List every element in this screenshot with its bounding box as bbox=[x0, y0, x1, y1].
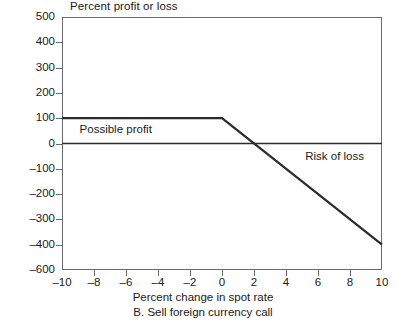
y-tick-mark bbox=[56, 219, 62, 220]
x-tick-mark bbox=[94, 270, 95, 276]
chart-figure: Percent profit or loss 5004003002001000–… bbox=[0, 0, 406, 322]
y-tick-mark bbox=[56, 194, 62, 195]
x-tick-mark bbox=[222, 270, 223, 276]
panel-caption: B. Sell foreign currency call bbox=[0, 306, 406, 318]
x-tick-mark bbox=[190, 270, 191, 276]
y-tick-mark bbox=[56, 68, 62, 69]
x-tick-mark bbox=[158, 270, 159, 276]
x-tick-mark bbox=[254, 270, 255, 276]
y-tick-mark bbox=[56, 93, 62, 94]
x-tick-mark bbox=[350, 270, 351, 276]
y-tick-label: 300 bbox=[9, 62, 55, 74]
y-tick-label: –300 bbox=[9, 214, 55, 226]
y-tick-mark bbox=[56, 144, 62, 145]
y-tick-mark bbox=[56, 245, 62, 246]
x-tick-mark bbox=[318, 270, 319, 276]
x-axis-title: Percent change in spot rate bbox=[0, 291, 406, 303]
y-tick-mark bbox=[56, 118, 62, 119]
y-tick-label: 0 bbox=[9, 138, 55, 150]
y-tick-label: –200 bbox=[9, 188, 55, 200]
y-tick-label: –600 bbox=[9, 264, 55, 276]
y-tick-mark bbox=[56, 42, 62, 43]
x-tick-mark bbox=[126, 270, 127, 276]
y-tick-mark bbox=[56, 169, 62, 170]
y-tick-label: 500 bbox=[9, 11, 55, 23]
data-layer bbox=[62, 17, 382, 270]
plot-annotation: Possible profit bbox=[80, 123, 152, 135]
x-tick-label: 10 bbox=[362, 277, 402, 289]
y-tick-label: 200 bbox=[9, 87, 55, 99]
x-tick-mark bbox=[286, 270, 287, 276]
y-tick-label: –400 bbox=[9, 239, 55, 251]
y-axis-title: Percent profit or loss bbox=[70, 0, 178, 12]
y-tick-label: 100 bbox=[9, 112, 55, 124]
y-tick-label: 400 bbox=[9, 37, 55, 49]
y-tick-label: –100 bbox=[9, 163, 55, 175]
payoff-line bbox=[62, 118, 382, 245]
plot-annotation: Risk of loss bbox=[305, 150, 364, 162]
